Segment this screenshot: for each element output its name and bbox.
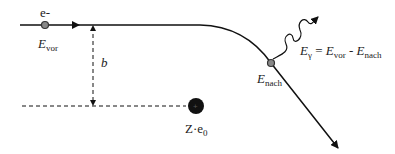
electron-before-icon	[42, 22, 49, 29]
electron-trajectory	[20, 25, 338, 148]
energy-before-label: Evor	[38, 37, 58, 53]
electron-after-icon	[268, 60, 275, 67]
impact-parameter-label: b	[101, 56, 108, 69]
nucleus-charge-label: Z·e0	[185, 122, 208, 138]
electron-label: e-	[40, 6, 50, 19]
photon-energy-equation: Eγ = Evor - Enach	[300, 44, 382, 60]
energy-after-label: Enach	[257, 72, 282, 88]
svg-text:+: +	[193, 102, 198, 111]
bremsstrahlung-diagram: + e- Evor b Enach Eγ = Evor - Enach Z·e0	[0, 0, 395, 154]
direction-arrow-icon	[72, 21, 80, 29]
